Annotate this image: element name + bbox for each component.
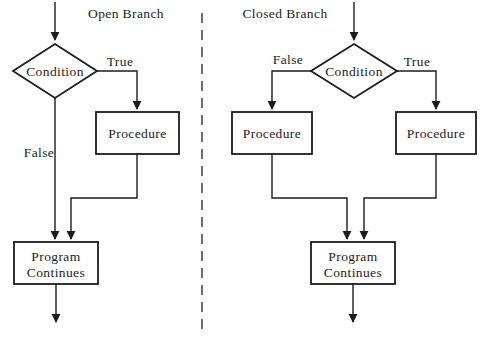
open-program-label-line2: Continues: [27, 265, 85, 280]
closed-branch-flowchart: Closed Branch Condition False True Proce…: [232, 2, 476, 322]
closed-procedure-left-label: Procedure: [243, 126, 301, 141]
closed-false-label: False: [273, 52, 304, 67]
closed-false-connector: [272, 71, 311, 109]
open-procedure-return-connector: [71, 154, 137, 239]
closed-branch-title: Closed Branch: [242, 6, 327, 21]
open-branch-flowchart: Open Branch Condition True False Procedu…: [13, 2, 179, 322]
open-program-label-line1: Program: [31, 249, 80, 264]
closed-true-connector: [397, 71, 436, 109]
closed-left-procedure-return-connector: [272, 154, 347, 239]
closed-program-label-line2: Continues: [324, 265, 382, 280]
open-branch-title: Open Branch: [88, 6, 164, 21]
closed-procedure-right-label: Procedure: [407, 126, 465, 141]
flowchart-figure: Open Branch Condition True False Procedu…: [0, 0, 482, 341]
flowchart-canvas: Open Branch Condition True False Procedu…: [0, 0, 482, 341]
open-true-label: True: [107, 54, 134, 69]
open-procedure-label: Procedure: [108, 126, 166, 141]
closed-program-label-line1: Program: [328, 249, 377, 264]
open-true-connector: [97, 71, 137, 109]
closed-right-procedure-return-connector: [364, 154, 436, 239]
open-condition-label: Condition: [26, 64, 84, 79]
open-false-label: False: [24, 145, 55, 160]
closed-true-label: True: [404, 54, 431, 69]
closed-condition-label: Condition: [325, 64, 383, 79]
